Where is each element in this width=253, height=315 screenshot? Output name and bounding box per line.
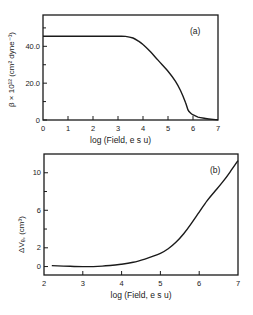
chart-a-svg: 01234567020.040.0(a)log (Field, e s u)β …: [0, 0, 253, 150]
x-tick-label: 0: [41, 124, 45, 133]
series-line-delta_Ve: [52, 161, 238, 267]
x-tick-label: 4: [120, 279, 124, 288]
plot-frame: [44, 154, 238, 275]
x-tick-label: 2: [42, 279, 46, 288]
x-tick-label: 6: [197, 279, 201, 288]
chart-b-svg: 23456702610(b)log (Field, e s u)ΔVₑ, (cm…: [0, 150, 253, 315]
x-tick-label: 4: [141, 124, 145, 133]
y-tick-label: 10: [33, 168, 41, 177]
y-axis-label: β × 10¹² (cm² dyne⁻¹): [7, 32, 16, 107]
x-tick-label: 6: [191, 124, 195, 133]
x-tick-label: 7: [236, 279, 240, 288]
chart-panel-a: 01234567020.040.0(a)log (Field, e s u)β …: [0, 0, 253, 150]
y-tick-label: 20.0: [25, 79, 40, 88]
chart-panel-b: 23456702610(b)log (Field, e s u)ΔVₑ, (cm…: [0, 150, 253, 315]
panel-label: (b): [210, 165, 221, 175]
y-axis-label: ΔVₑ, (cm³): [17, 216, 26, 253]
x-tick-label: 3: [116, 124, 120, 133]
y-tick-label: 2: [37, 243, 41, 252]
x-axis-label: log (Field, e s u): [111, 290, 172, 300]
x-axis-label: log (Field, e s u): [90, 135, 151, 145]
x-tick-label: 5: [158, 279, 162, 288]
y-tick-label: 6: [37, 206, 41, 215]
x-tick-label: 1: [66, 124, 70, 133]
series-line-beta: [43, 36, 218, 120]
y-tick-label: 40.0: [25, 42, 40, 51]
x-tick-label: 3: [81, 279, 85, 288]
x-tick-label: 7: [216, 124, 220, 133]
y-tick-label: 0: [36, 116, 40, 125]
panel-label: (a): [190, 26, 201, 36]
y-tick-label: 0: [37, 262, 41, 271]
x-tick-label: 2: [91, 124, 95, 133]
x-tick-label: 5: [166, 124, 170, 133]
